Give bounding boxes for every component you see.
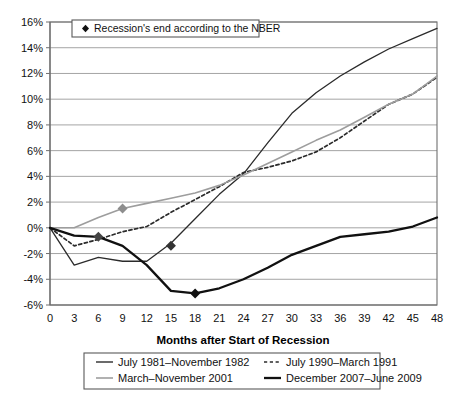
marker-legend-label: Recession's end according to the NBER — [94, 22, 281, 34]
x-tick-label: 12 — [141, 312, 153, 324]
y-tick-label: 16% — [21, 16, 43, 28]
series-legend-box: July 1981–November 1982July 1990–March 1… — [84, 353, 422, 389]
legend-label: July 1990–March 1991 — [286, 356, 397, 368]
x-tick-label: 48 — [431, 312, 443, 324]
x-tick-label: 18 — [189, 312, 201, 324]
x-tick-label: 6 — [95, 312, 101, 324]
series-line — [50, 28, 437, 265]
y-tick-label: 8% — [27, 119, 43, 131]
x-tick-label: 45 — [407, 312, 419, 324]
nber-end-markers — [93, 204, 200, 299]
nber-end-diamond-marker — [118, 204, 128, 214]
series-line — [50, 218, 437, 294]
y-tick-label: 0% — [27, 222, 43, 234]
x-axis-title: Months after Start of Recession — [156, 334, 329, 346]
x-tick-label: 3 — [71, 312, 77, 324]
y-tick-label: -2% — [23, 248, 43, 260]
x-tick-label: 27 — [262, 312, 274, 324]
x-tick-label: 15 — [165, 312, 177, 324]
line-chart: 16%14%12%10%8%6%4%2%0%-2%-4%-6% 03691215… — [0, 0, 454, 402]
series-line — [50, 77, 437, 246]
x-tick-label: 24 — [237, 312, 249, 324]
x-tick-label: 39 — [358, 312, 370, 324]
y-tick-label: 6% — [27, 145, 43, 157]
x-tick-label: 30 — [286, 312, 298, 324]
nber-end-diamond-marker — [190, 288, 200, 298]
marker-legend-box: Recession's end according to the NBER — [72, 20, 281, 37]
legend-label: July 1981–November 1982 — [118, 356, 249, 368]
legend-label: March–November 2001 — [118, 372, 233, 384]
y-tick-label: -4% — [23, 273, 43, 285]
x-axis-tick-labels: 036912151821242730333639424548 — [47, 312, 443, 324]
y-tick-label: 2% — [27, 196, 43, 208]
y-tick-label: 10% — [21, 93, 43, 105]
x-tick-label: 9 — [120, 312, 126, 324]
x-tick-label: 36 — [334, 312, 346, 324]
x-tick-label: 33 — [310, 312, 322, 324]
y-tick-label: -6% — [23, 299, 43, 311]
chart-figure: 16%14%12%10%8%6%4%2%0%-2%-4%-6% 03691215… — [0, 0, 454, 402]
nber-end-diamond-marker — [166, 241, 176, 251]
y-tick-label: 12% — [21, 67, 43, 79]
page-caption-sliver — [18, 394, 438, 402]
y-tick-label: 14% — [21, 42, 43, 54]
y-axis-tick-labels: 16%14%12%10%8%6%4%2%0%-2%-4%-6% — [21, 16, 43, 311]
y-tick-label: 4% — [27, 170, 43, 182]
legend-label: December 2007–June 2009 — [286, 372, 422, 384]
plot-area-border — [50, 22, 437, 305]
x-tick-label: 0 — [47, 312, 53, 324]
x-tick-label: 42 — [383, 312, 395, 324]
x-tick-label: 21 — [213, 312, 225, 324]
